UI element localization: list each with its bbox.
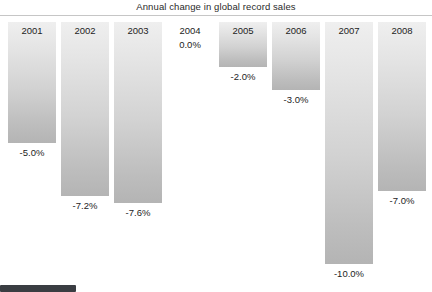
bar[interactable] <box>378 22 426 191</box>
horizontal-scrollbar[interactable] <box>0 282 432 292</box>
bar-value-label: -7.6% <box>108 207 168 218</box>
scrollbar-thumb[interactable] <box>0 285 76 292</box>
bar-column[interactable]: 2002-7.2% <box>61 22 109 196</box>
bar[interactable] <box>8 22 56 143</box>
bar-column[interactable]: 2006-3.0% <box>272 22 320 90</box>
bar-column[interactable]: 2001-5.0% <box>8 22 56 143</box>
bar[interactable] <box>325 22 373 264</box>
bar-year-label: 2004 <box>166 25 214 36</box>
bar[interactable] <box>114 22 162 203</box>
bar-column[interactable]: 2008-7.0% <box>378 22 426 191</box>
bar[interactable] <box>219 22 267 67</box>
bar-value-label: -7.0% <box>372 195 432 206</box>
bar-column[interactable]: 2007-10.0% <box>325 22 373 264</box>
bar-value-label: 0.0% <box>166 39 214 50</box>
bar-column[interactable]: 2003-7.6% <box>114 22 162 203</box>
chart-root: Annual change in global record sales 200… <box>0 0 432 292</box>
bar-value-label: -5.0% <box>2 147 62 158</box>
bar-column[interactable]: 2005-2.0% <box>219 22 267 67</box>
bar-value-label: -10.0% <box>319 268 379 279</box>
plot-area: 2001-5.0%2002-7.2%2003-7.6%20040.0%2005-… <box>0 0 432 292</box>
bar[interactable] <box>272 22 320 90</box>
bar-value-label: -2.0% <box>213 71 273 82</box>
bar-value-label: -3.0% <box>266 94 326 105</box>
bar[interactable] <box>61 22 109 196</box>
bar-value-label: -7.2% <box>55 200 115 211</box>
